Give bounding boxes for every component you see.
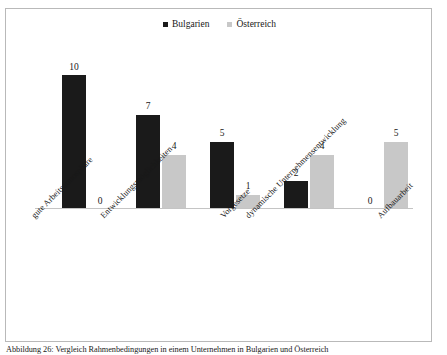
- bar-value-bulgarien: 7: [136, 102, 160, 112]
- chart-legend: Bulgarien Österreich: [6, 19, 433, 29]
- bar-value-oesterreich: 5: [384, 129, 408, 139]
- bar-bulgarien[interactable]: [210, 142, 234, 209]
- bar-value-bulgarien: 10: [62, 63, 86, 73]
- figure-caption: Abbildung 26: Vergleich Rahmenbedingunge…: [6, 345, 447, 354]
- category-axis-labels: gute Arbeitsatmosphäre Entwicklungsmögli…: [26, 209, 418, 339]
- legend-swatch-oesterreich: [227, 22, 232, 27]
- legend-entry-oesterreich: Österreich: [227, 19, 276, 29]
- legend-entry-bulgarien: Bulgarien: [163, 19, 209, 29]
- figure-frame: Bulgarien Österreich 10 0 7: [5, 8, 432, 342]
- bar-bulgarien[interactable]: [284, 181, 308, 208]
- bar-value-bulgarien: 0: [358, 197, 382, 207]
- bar-value-bulgarien: 5: [210, 129, 234, 139]
- legend-swatch-bulgarien: [163, 22, 168, 27]
- legend-label-oesterreich: Österreich: [236, 19, 276, 29]
- bar-oesterreich[interactable]: [310, 155, 334, 208]
- bar-oesterreich[interactable]: [162, 155, 186, 208]
- plot-area: 10 0 7 4 5 1: [26, 37, 418, 209]
- legend-label-bulgarien: Bulgarien: [172, 19, 209, 29]
